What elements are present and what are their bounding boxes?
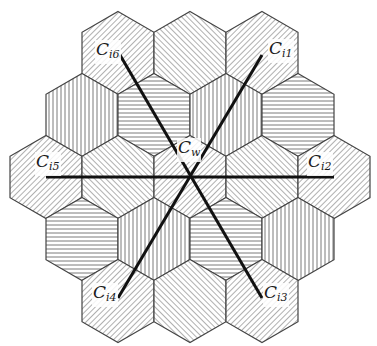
label-base: C — [96, 39, 109, 59]
label-c-i3: Ci3 — [263, 283, 289, 307]
label-c-i2: Ci2 — [307, 152, 333, 176]
label-c-i6: Ci6 — [95, 40, 121, 64]
label-subscript: i1 — [282, 47, 293, 60]
label-base: C — [264, 282, 277, 302]
label-subscript: i3 — [277, 291, 288, 304]
label-c-i5: Ci5 — [35, 152, 61, 176]
label-base: C — [36, 151, 49, 171]
label-subscript: w — [191, 146, 200, 159]
label-subscript: i5 — [49, 160, 60, 173]
label-base: C — [308, 151, 321, 171]
label-base: C — [93, 282, 106, 302]
label-c-i4: Ci4 — [92, 283, 118, 307]
label-base: C — [178, 137, 191, 157]
label-base: C — [269, 38, 282, 58]
label-subscript: i4 — [106, 291, 117, 304]
label-c-w: Cw — [177, 138, 201, 162]
label-c-i1: Ci1 — [268, 39, 294, 63]
label-subscript: i2 — [321, 160, 332, 173]
label-subscript: i6 — [109, 48, 120, 61]
